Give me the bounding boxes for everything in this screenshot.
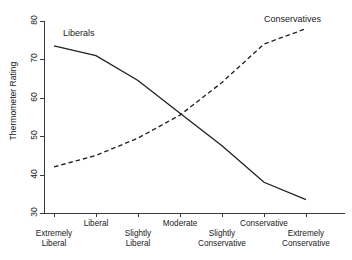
series-label-conservatives: Conservatives <box>264 14 321 24</box>
series-label-liberals: Liberals <box>63 28 95 38</box>
chart-screenshot: Thermometer Rating 304050607080 Extremel… <box>0 0 352 260</box>
series-line-liberals <box>54 46 306 200</box>
chart-plot-lines <box>0 0 352 260</box>
series-line-conservatives <box>54 29 306 167</box>
